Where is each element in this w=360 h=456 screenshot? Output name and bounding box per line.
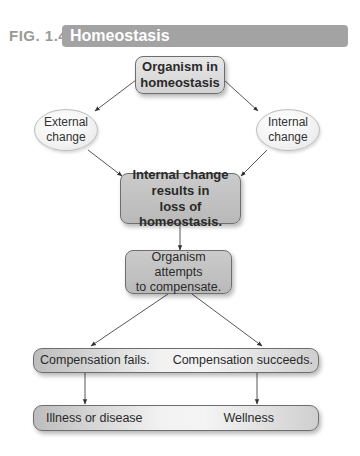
arrow-to-fails	[91, 294, 168, 346]
node-organism-in-homeostasis: Organism in homeostasis	[135, 56, 225, 94]
arrow-external-to-loss	[88, 150, 122, 176]
node-internal-change: Internal change	[256, 109, 320, 151]
node-loss-of-homeostasis: Internal change results in loss of homeo…	[120, 173, 241, 224]
node-organism-attempts-compensate: Organism attempts to compensate.	[125, 250, 232, 294]
arrow-to-internal-change	[224, 80, 258, 111]
node-external-change: External change	[34, 109, 98, 151]
illness-or-disease-label: Illness or disease	[46, 411, 143, 426]
arrow-internal-to-loss	[241, 150, 267, 176]
node-compensation-result: Compensation fails. Compensation succeed…	[33, 348, 319, 373]
wellness-label: Wellness	[224, 411, 274, 426]
node-outcome: Illness or disease Wellness	[33, 405, 319, 431]
arrow-to-external-change	[95, 80, 136, 111]
compensation-fails-label: Compensation fails.	[40, 353, 150, 368]
arrow-to-succeeds	[192, 294, 262, 346]
compensation-succeeds-label: Compensation succeeds.	[173, 353, 313, 368]
